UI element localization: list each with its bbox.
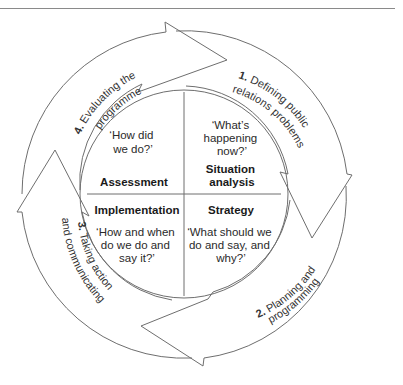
assessment-question: ‘How did we do?’ — [109, 129, 156, 155]
implementation-label: Implementation — [95, 204, 180, 216]
situation-question: ‘What’s happening now?’ — [204, 119, 261, 157]
arrow-defining — [176, 31, 352, 238]
strategy-question: ‘What should we do and say, and why?’ — [187, 226, 275, 264]
situation-analysis-label: Situation analysis — [206, 163, 258, 188]
assessment-label: Assessment — [100, 176, 168, 188]
pr-cycle-diagram: ‘How did we do?’ Assessment ‘What’s happ… — [0, 0, 403, 385]
strategy-label: Strategy — [208, 204, 255, 216]
implementation-question: ‘How and when do we do and say it?’ — [96, 226, 178, 264]
arrow-evaluating — [22, 22, 227, 194]
